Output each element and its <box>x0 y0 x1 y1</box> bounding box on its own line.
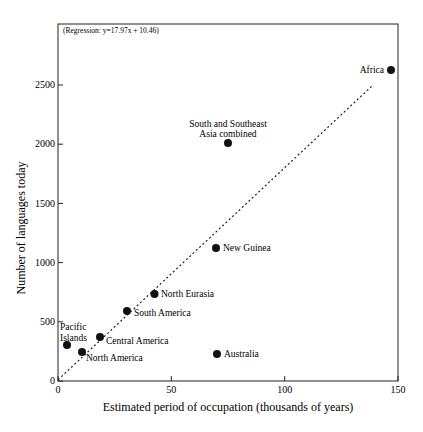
label-australia: Australia <box>224 349 260 359</box>
label-ssea-1: South and Southeast <box>189 119 267 129</box>
y-tick-500: 500 <box>40 316 55 327</box>
x-tick-0: 0 <box>56 384 61 395</box>
point-north-eurasia <box>151 290 159 298</box>
point-africa <box>387 66 395 74</box>
point-australia <box>213 350 221 358</box>
label-central-america: Central America <box>106 336 169 346</box>
point-south-america <box>123 307 131 315</box>
y-tick-1500: 1500 <box>35 198 55 209</box>
scatter-chart: (Regression: y=17.97x + 10.46) 0 500 100… <box>0 0 423 432</box>
y-axis-label: Number of languages today <box>14 162 28 295</box>
x-tick-labels: 0 50 100 150 <box>56 384 406 395</box>
label-ssea-2: Asia combined <box>199 129 257 139</box>
label-pacific-islands-2: Islands <box>60 333 87 343</box>
y-tick-labels: 0 500 1000 1500 2000 2500 <box>35 79 55 386</box>
point-new-guinea <box>212 244 220 252</box>
plot-frame <box>58 24 398 381</box>
data-points <box>63 66 395 358</box>
point-north-america <box>78 348 86 356</box>
y-tick-2500: 2500 <box>35 79 55 90</box>
y-tick-1000: 1000 <box>35 257 55 268</box>
point-labels: Pacific Islands North America Central Am… <box>60 65 385 363</box>
label-pacific-islands-1: Pacific <box>60 322 86 332</box>
label-africa: Africa <box>360 65 385 75</box>
label-new-guinea: New Guinea <box>223 243 272 253</box>
x-axis-label: Estimated period of occupation (thousand… <box>103 400 354 414</box>
regression-annotation: (Regression: y=17.97x + 10.46) <box>63 26 159 35</box>
x-axis <box>58 376 398 381</box>
x-tick-50: 50 <box>166 384 176 395</box>
label-north-eurasia: North Eurasia <box>161 289 215 299</box>
x-tick-100: 100 <box>277 384 292 395</box>
point-south-southeast-asia <box>224 139 232 147</box>
label-north-america: North America <box>86 353 144 363</box>
y-tick-2000: 2000 <box>35 138 55 149</box>
point-central-america <box>96 333 104 341</box>
label-south-america: South America <box>134 308 192 318</box>
y-tick-0: 0 <box>50 375 55 386</box>
x-tick-150: 150 <box>391 384 406 395</box>
